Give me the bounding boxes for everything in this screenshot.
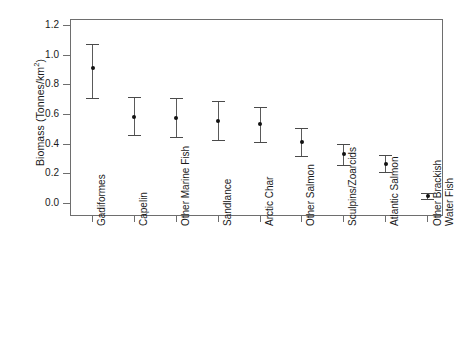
x-axis-tick (301, 216, 302, 222)
x-axis-tick-label: Atlantic Salmon (389, 157, 401, 226)
error-bar-cap-lower (170, 137, 183, 138)
x-axis-tick-label-line: Other Salmon (305, 164, 317, 226)
x-axis-tick (260, 216, 261, 222)
x-axis-tick (92, 216, 93, 222)
error-bar-cap-upper (212, 101, 225, 102)
error-bar-cap-lower (337, 165, 350, 166)
data-point (91, 66, 95, 70)
y-axis-tick (63, 84, 70, 85)
error-bar-cap-lower (212, 140, 225, 141)
x-axis-tick (427, 216, 428, 222)
y-axis-tick-label: 0.4 (19, 138, 59, 149)
y-axis-tick-label-wrap: 1.2 (18, 25, 59, 26)
x-axis-tick-label: Capelin (138, 192, 150, 226)
x-axis-tick-label: Sandlance (222, 179, 234, 226)
x-axis-tick (134, 216, 135, 222)
error-bar-line (92, 44, 93, 97)
data-point (426, 194, 430, 198)
x-axis-tick-label: Sculpins/Zoarcids (347, 147, 359, 226)
x-axis-tick-label-line: Other Marine Fish (180, 146, 192, 226)
error-bar-cap-lower (421, 199, 434, 200)
error-bar-cap-lower (86, 98, 99, 99)
y-axis-tick (63, 114, 70, 115)
x-axis-tick-label-line: Gadiformes (96, 174, 108, 226)
y-axis-tick (63, 25, 70, 26)
y-axis-tick-label: 0.2 (19, 167, 59, 178)
x-axis-tick-label: Other Marine Fish (180, 146, 192, 226)
error-bar-cap-upper (295, 128, 308, 129)
y-axis-title-superscript: 2 (32, 63, 41, 67)
y-axis-tick-label: 1.0 (19, 49, 59, 60)
x-axis-tick-label-line: Sandlance (222, 179, 234, 226)
x-axis-tick-label-line: Arctic Char (264, 177, 276, 226)
x-axis-tick-label: Arctic Char (264, 177, 276, 226)
error-bar-cap-lower (128, 135, 141, 136)
y-axis-tick-label-wrap: 0.0 (18, 203, 59, 204)
y-axis-tick (63, 144, 70, 145)
error-bar-cap-upper (170, 98, 183, 99)
y-axis-tick (63, 55, 70, 56)
y-axis-tick-label: 1.2 (19, 19, 59, 30)
y-axis-tick-label: 0.8 (19, 78, 59, 89)
error-bar-cap-lower (254, 142, 267, 143)
y-axis-tick (63, 173, 70, 174)
plot-frame (70, 19, 443, 216)
x-axis-tick (176, 216, 177, 222)
data-point (342, 152, 346, 156)
y-axis-tick (63, 203, 70, 204)
x-axis-tick-label: Other BrackishWater Fish (432, 160, 455, 226)
x-axis-tick-label-line: Sculpins/Zoarcids (347, 147, 359, 226)
y-axis-tick-label: 0.6 (19, 108, 59, 119)
y-axis-tick-label: 0.0 (19, 197, 59, 208)
error-bar-cap-upper (86, 44, 99, 45)
error-bar-cap-lower (295, 156, 308, 157)
y-axis-tick-label-wrap: 0.2 (18, 173, 59, 174)
error-bar-cap-upper (379, 155, 392, 156)
x-axis-tick (343, 216, 344, 222)
x-axis-tick (385, 216, 386, 222)
x-axis-tick (218, 216, 219, 222)
x-axis-tick-label-line: Capelin (138, 192, 150, 226)
x-axis-tick-label-line: Atlantic Salmon (389, 157, 401, 226)
x-axis-tick-label: Other Salmon (305, 164, 317, 226)
error-bar-cap-upper (254, 107, 267, 108)
x-axis-tick-label: Gadiformes (96, 174, 108, 226)
y-axis-tick-label-wrap: 1.0 (18, 55, 59, 56)
error-bar-cap-upper (128, 97, 141, 98)
chart-figure: Biomass (Tonnes/km2) 0.00.20.40.60.81.01… (0, 0, 465, 345)
y-axis-tick-label-wrap: 0.4 (18, 144, 59, 145)
x-axis-tick-label-line: Water Fish (444, 160, 456, 226)
y-axis-tick-label-wrap: 0.6 (18, 114, 59, 115)
y-axis-tick-label-wrap: 0.8 (18, 84, 59, 85)
error-bar-cap-lower (379, 172, 392, 173)
error-bar-cap-upper (337, 144, 350, 145)
